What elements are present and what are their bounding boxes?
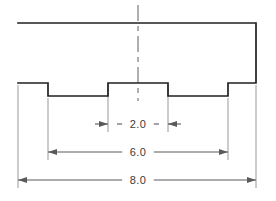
dimension-label-8-0: 8.0	[130, 174, 147, 186]
technical-drawing-canvas: 2.0 6.0 8.0	[0, 0, 276, 201]
dimension-label-2-0: 2.0	[130, 118, 147, 130]
part-outline	[18, 23, 256, 96]
dimension-label-6-0: 6.0	[130, 146, 147, 158]
extension-lines-group	[18, 85, 256, 188]
drawing-svg: 2.0 6.0 8.0	[0, 0, 276, 201]
